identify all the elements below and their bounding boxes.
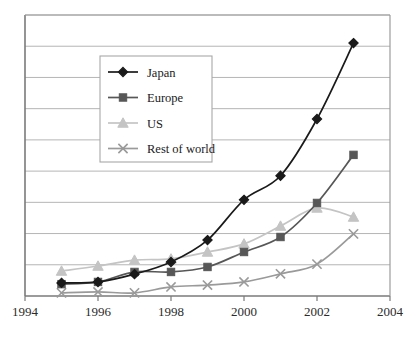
series-europe-square-marker-icon <box>167 268 174 275</box>
series-us-triangle-marker-icon <box>239 239 249 248</box>
chart-canvas: 199419961998200020022004JapanEuropeUSRes… <box>0 0 415 338</box>
x-axis-tick-label: 2002 <box>304 304 330 319</box>
legend-item-label: US <box>147 117 163 131</box>
series-japan-diamond-marker-icon <box>312 114 321 123</box>
legend-square-marker-icon <box>119 94 126 101</box>
legend-item-label: Japan <box>147 66 176 80</box>
x-axis-tick-label: 2000 <box>231 304 257 319</box>
series-europe-square-marker-icon <box>313 199 320 206</box>
series-europe-square-marker-icon <box>240 248 247 255</box>
series-europe-square-marker-icon <box>350 151 357 158</box>
series-europe <box>58 151 357 288</box>
x-tick-group: 199419961998200020022004 <box>12 296 404 319</box>
series-rest-of-world-cross-marker-icon <box>312 260 321 269</box>
x-axis-tick-label: 1996 <box>85 304 112 319</box>
x-axis-tick-label: 1998 <box>158 304 184 319</box>
legend: JapanEuropeUSRest of world <box>100 56 216 162</box>
x-axis-tick-label: 2004 <box>377 304 404 319</box>
legend-item-label: Europe <box>147 91 184 105</box>
series-us-triangle-marker-icon <box>275 221 285 230</box>
series-europe-square-marker-icon <box>277 233 284 240</box>
x-axis-tick-label: 1994 <box>12 304 39 319</box>
line-chart: 199419961998200020022004JapanEuropeUSRes… <box>0 0 415 338</box>
legend-item-label: Rest of world <box>147 142 216 156</box>
series-europe-square-marker-icon <box>204 263 211 270</box>
